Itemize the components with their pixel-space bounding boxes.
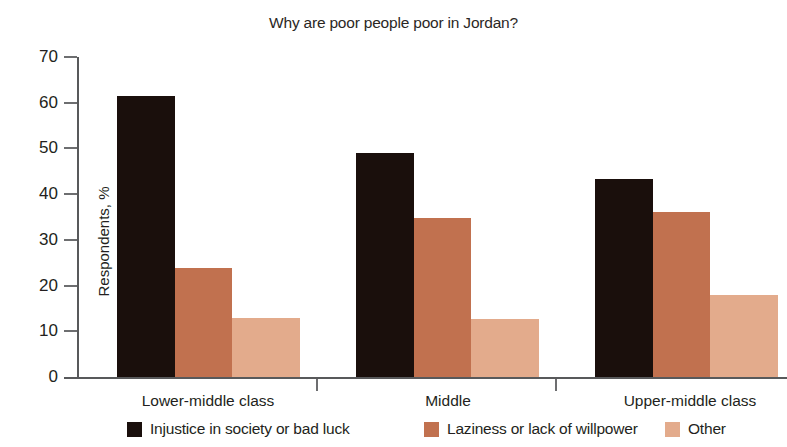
bar-chart-figure: Why are poor people poor in Jordan? 7060… <box>0 0 787 447</box>
legend-swatch-icon <box>424 422 439 437</box>
bar <box>471 319 539 377</box>
plot-area <box>77 57 787 377</box>
legend-item-1[interactable]: Laziness or lack of willpower <box>424 420 638 438</box>
y-axis-tick <box>64 147 77 149</box>
legend-swatch-icon <box>127 422 142 437</box>
y-axis-tick-value: 20 <box>18 277 58 294</box>
y-axis-tick <box>64 239 77 241</box>
y-axis-tick-label: 10 <box>0 322 58 340</box>
y-axis-tick-label: 0 <box>0 368 58 386</box>
y-axis-tick <box>64 102 77 104</box>
y-axis-tick-label: 70 <box>0 48 58 66</box>
y-axis-tick-value: 40 <box>18 185 58 202</box>
bar <box>232 318 300 377</box>
chart-title: Why are poor people poor in Jordan? <box>0 14 787 32</box>
legend-label: Other <box>688 420 726 438</box>
y-axis-tick <box>64 193 77 195</box>
y-axis-tick-value: 30 <box>18 231 58 248</box>
category-separator-tick <box>555 379 557 391</box>
chart-legend: Injustice in society or bad luckLaziness… <box>0 420 787 447</box>
bar <box>175 268 232 377</box>
bar <box>356 153 414 377</box>
legend-label: Laziness or lack of willpower <box>447 420 638 438</box>
y-axis-tick-value: 60 <box>18 94 58 111</box>
category-label-2: Upper-middle class <box>580 392 787 410</box>
y-axis-tick <box>64 285 77 287</box>
y-axis-tick-value: 70 <box>18 48 58 65</box>
legend-label: Injustice in society or bad luck <box>150 420 350 438</box>
y-axis-tick-value: 10 <box>18 322 58 339</box>
y-axis-tick-label: 30 <box>0 231 58 249</box>
y-axis-tick-label: 20 <box>0 277 58 295</box>
y-axis-tick-label: 50 <box>0 139 58 157</box>
category-separator-tick <box>316 379 318 391</box>
bar <box>117 96 175 377</box>
y-axis-tick <box>64 56 77 58</box>
legend-item-0[interactable]: Injustice in society or bad luck <box>127 420 350 438</box>
category-label-1: Middle <box>338 392 558 410</box>
y-axis-tick-value: 50 <box>18 139 58 156</box>
bar <box>710 295 778 377</box>
y-axis-tick <box>64 330 77 332</box>
bar <box>653 212 710 377</box>
y-axis-tick-label: 60 <box>0 94 58 112</box>
category-label-0: Lower-middle class <box>98 392 318 410</box>
legend-item-2[interactable]: Other <box>665 420 726 438</box>
legend-swatch-icon <box>665 422 680 437</box>
y-axis-tick-label: 40 <box>0 185 58 203</box>
x-axis-line <box>64 377 787 379</box>
y-axis-tick-value: 0 <box>18 368 58 385</box>
bar <box>414 218 471 377</box>
bar <box>595 179 653 377</box>
